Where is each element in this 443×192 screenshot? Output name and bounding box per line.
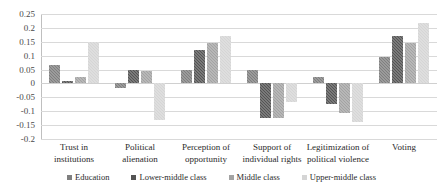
bar [88,42,100,83]
legend-label: Education [75,173,109,182]
bar-group [107,14,173,139]
x-axis-label-line: Perception of [173,142,239,154]
bar-slot [128,14,140,139]
x-axis-label-line: Voting [371,142,437,154]
bar-slot [273,14,285,139]
bar-slot [62,14,74,139]
bar [352,83,364,121]
y-axis-tick-label: 0.15 [19,37,35,46]
y-axis-tick-label: 0.05 [19,65,35,74]
y-axis-tick-label: -0.15 [16,121,35,130]
bar-slot [141,14,153,139]
bar-slot [352,14,364,139]
grouped-bar-chart: 0.250.20.150.10.050-0.05-0.1-0.15-0.2 Tr… [0,0,443,192]
bar-slot [75,14,87,139]
bar [313,77,325,84]
bar [220,36,232,84]
bar-slot [405,14,417,139]
legend-swatch-icon [229,175,234,180]
bar-slot [247,14,259,139]
bar-slot [207,14,219,139]
bar [326,83,338,104]
bar [62,81,74,83]
bar [181,70,193,84]
x-axis-label-line: institutions [41,154,107,166]
x-axis-label-line: Support of [239,142,305,154]
bar [49,65,61,83]
y-axis-tick-label: -0.1 [21,107,35,116]
bar-slot [286,14,298,139]
bar-slot [339,14,351,139]
bar [115,83,127,87]
gridline [41,139,437,140]
y-axis: 0.250.20.150.10.050-0.05-0.1-0.15-0.2 [0,14,38,139]
bar-slot [260,14,272,139]
x-axis-label-line: Legitimization of [305,142,371,154]
bar [405,43,417,83]
bar-group [239,14,305,139]
bar-slot [392,14,404,139]
bar [141,71,153,84]
bar-slot [181,14,193,139]
x-axis-label-line: Political [107,142,173,154]
bar [260,83,272,118]
y-axis-tick-label: 0.2 [24,23,35,32]
bar [286,83,298,102]
x-axis-label: Legitimization ofpolitical violence [305,142,371,165]
legend-item[interactable]: Middle class [229,173,280,182]
x-axis-label-line: individual rights [239,154,305,166]
y-axis-tick-label: 0.1 [24,51,35,60]
bar [154,83,166,120]
bar-group [41,14,107,139]
legend-label: Upper-middle class [310,173,376,182]
bar-group [305,14,371,139]
y-axis-tick-label: 0 [31,79,36,88]
bar [379,57,391,83]
legend-swatch-icon [131,175,136,180]
bar [128,70,140,83]
bar-slot [88,14,100,139]
legend-item[interactable]: Upper-middle class [302,173,376,182]
bar [75,77,87,84]
chart-legend: EducationLower-middle classMiddle classU… [0,173,443,182]
bar-slot [313,14,325,139]
x-axis-label-line: Trust in [41,142,107,154]
legend-swatch-icon [67,175,72,180]
bar-slot [49,14,61,139]
legend-item[interactable]: Lower-middle class [131,173,206,182]
legend-item[interactable]: Education [67,173,109,182]
bar [418,23,430,84]
legend-label: Middle class [237,173,280,182]
x-axis-label: Voting [371,142,437,154]
x-axis-category-labels: Trust ininstitutionsPoliticalalienationP… [41,142,437,172]
y-axis-tick-label: 0.25 [19,10,35,19]
bar [392,36,404,83]
x-axis-label: Politicalalienation [107,142,173,165]
x-axis-label: Support ofindividual rights [239,142,305,165]
bar-slot [379,14,391,139]
legend-label: Lower-middle class [139,173,206,182]
y-axis-tick-label: -0.2 [21,135,35,144]
bar-slot [326,14,338,139]
x-axis-label-line: political violence [305,154,371,166]
bar-group [173,14,239,139]
bar [194,50,206,83]
y-axis-tick-label: -0.05 [16,93,35,102]
x-axis-label: Perception ofopportunity [173,142,239,165]
x-axis-label-line: alienation [107,154,173,166]
bar-slot [418,14,430,139]
legend-swatch-icon [302,175,307,180]
bar-slot [220,14,232,139]
bar [247,70,259,84]
x-axis-label-line: opportunity [173,154,239,166]
bar-slot [154,14,166,139]
bar-slot [115,14,127,139]
bar-slot [194,14,206,139]
bar [273,83,285,118]
bar-group [371,14,437,139]
x-axis-label: Trust ininstitutions [41,142,107,165]
bar [207,43,219,83]
bar [339,83,351,112]
plot-area [41,14,437,139]
